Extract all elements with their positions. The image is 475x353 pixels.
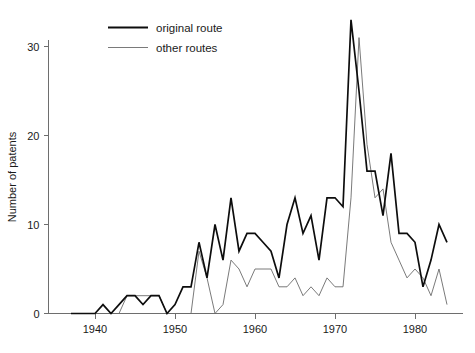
chart-legend: original route other routes (108, 22, 222, 54)
legend-label-other-routes: other routes (156, 42, 218, 54)
chart-container: 0102030 19401950196019701980 Number of p… (0, 0, 475, 353)
series-line-other-routes (71, 38, 447, 314)
y-axis-ticks: 0102030 (27, 41, 48, 320)
y-axis-title: Number of patents (6, 131, 18, 222)
x-tick-label: 1940 (83, 323, 107, 335)
y-tick-label: 20 (27, 130, 39, 142)
x-tick-label: 1970 (323, 323, 347, 335)
x-tick-label: 1980 (403, 323, 427, 335)
y-tick-label: 10 (27, 219, 39, 231)
x-tick-label: 1950 (163, 323, 187, 335)
line-chart: 0102030 19401950196019701980 Number of p… (0, 0, 475, 353)
y-tick-label: 30 (27, 41, 39, 53)
legend-label-original-route: original route (156, 22, 222, 34)
x-axis-ticks: 19401950196019701980 (83, 314, 427, 335)
x-tick-label: 1960 (243, 323, 267, 335)
y-tick-label: 0 (33, 308, 39, 320)
